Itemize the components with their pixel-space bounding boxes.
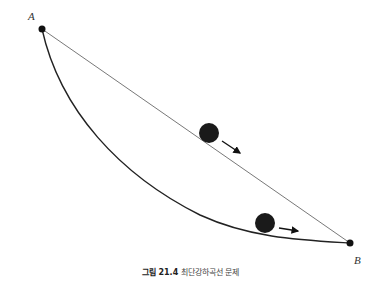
figure-title: 최단강하곡선 문제 (181, 268, 240, 277)
ball-on-curve (255, 213, 275, 233)
point-b-label: B (354, 254, 361, 266)
point-a-dot (39, 26, 46, 33)
arrow-line-icon (222, 141, 240, 153)
straight-line-path (42, 29, 350, 243)
figure-number: 그림 21.4 (142, 268, 179, 277)
point-a-label: A (28, 10, 35, 22)
arrow-curve-icon (279, 228, 298, 231)
ball-on-line (199, 123, 219, 143)
figure-caption: 그림 21.4 최단강하곡선 문제 (0, 266, 381, 277)
brachistochrone-diagram (0, 0, 381, 288)
point-b-dot (347, 240, 354, 247)
